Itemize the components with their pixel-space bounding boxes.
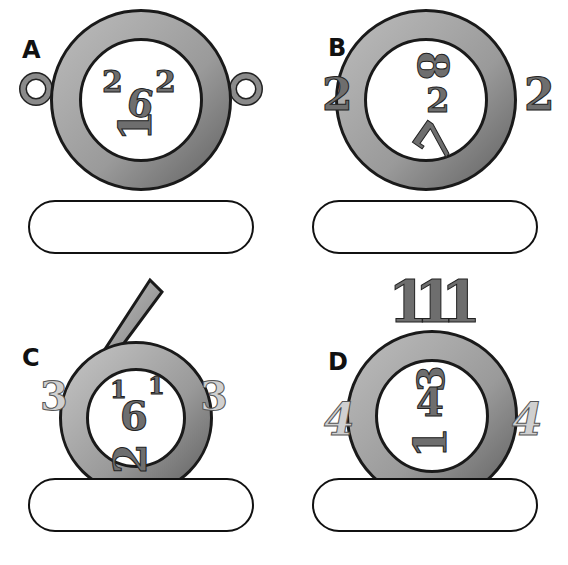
numeral: 2: [322, 69, 353, 120]
numeral: 2: [102, 64, 123, 99]
puzzle-c-figure: C 3 3 1 1 6 2: [0, 270, 284, 480]
numeral: 4: [324, 394, 355, 445]
numeral: 2: [155, 64, 176, 99]
numeral: 2: [426, 80, 450, 120]
puzzle-label: A: [22, 36, 41, 64]
puzzle-b-figure: B 2 2 8 2 7: [284, 0, 568, 200]
numeral: 4: [512, 394, 543, 445]
numeral: 2: [524, 69, 555, 120]
puzzle-label: C: [22, 344, 40, 372]
answer-box[interactable]: [312, 200, 538, 254]
puzzle-label: B: [328, 34, 346, 62]
numeral: 1: [110, 110, 161, 141]
answer-box[interactable]: [312, 478, 538, 532]
numeral-crown: 111: [388, 270, 476, 336]
numeral: 3: [200, 372, 228, 419]
puzzle-label: D: [328, 348, 348, 376]
numeral: 6: [120, 392, 148, 439]
answer-box[interactable]: [28, 478, 254, 532]
numeral: 3: [40, 372, 68, 419]
puzzle-d-figure: D 111 4 4 3 4 1: [284, 270, 568, 480]
numeral: 1: [405, 427, 456, 458]
puzzle-d: D 111 4 4 3 4 1: [284, 270, 568, 552]
answer-box[interactable]: [28, 200, 254, 254]
puzzle-a: A 2 2 6 1: [0, 0, 284, 282]
numeral: 8: [408, 51, 457, 80]
numeral: 2: [105, 443, 156, 474]
puzzle-b: B 2 2 8 2 7: [284, 0, 568, 282]
puzzle-a-figure: A 2 2 6 1: [0, 0, 284, 200]
numeral: 1: [148, 371, 165, 400]
puzzle-c: C 3 3 1 1 6 2: [0, 270, 284, 552]
numeral: 4: [416, 378, 444, 425]
